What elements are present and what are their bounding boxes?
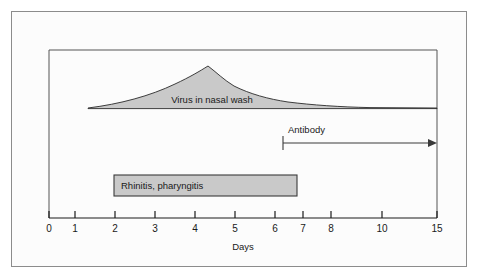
x-axis-ticks (49, 211, 437, 218)
virus-antibody-timeline-chart: Virus in nasal wash Antibody Rhinitis, p… (0, 0, 488, 279)
symptom-band-label: Rhinitis, pharyngitis (121, 180, 204, 191)
x-tick-label-1: 1 (72, 223, 78, 234)
x-tick-label-5: 5 (232, 223, 238, 234)
virus-curve-label: Virus in nasal wash (171, 94, 253, 105)
x-tick-label-7: 7 (300, 223, 306, 234)
figure-root: Virus in nasal wash Antibody Rhinitis, p… (0, 0, 488, 279)
virus-in-nasal-wash-area (88, 66, 437, 109)
x-tick-label-8: 8 (328, 223, 334, 234)
x-tick-label-15: 15 (431, 223, 443, 234)
x-tick-label-0: 0 (46, 223, 52, 234)
x-tick-label-2: 2 (112, 223, 118, 234)
x-tick-label-10: 10 (376, 223, 388, 234)
x-axis-title: Days (232, 241, 254, 252)
antibody-label: Antibody (288, 124, 325, 135)
x-tick-label-4: 4 (192, 223, 198, 234)
x-axis-tick-labels: 0 1 2 3 4 5 6 7 8 10 15 (46, 223, 443, 234)
x-tick-label-3: 3 (152, 223, 158, 234)
antibody-arrowhead (428, 139, 437, 147)
x-tick-label-6: 6 (272, 223, 278, 234)
antibody-marker (283, 136, 437, 150)
